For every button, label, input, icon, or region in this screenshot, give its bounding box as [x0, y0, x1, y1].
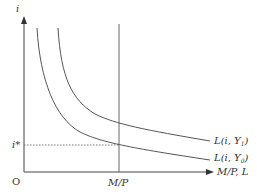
x-axis-label: M/P, L: [216, 166, 249, 177]
money-market-diagram: i i* O M/P M/P, L L(i, Y1) L(i, Y0): [0, 0, 257, 196]
y-axis-arrow-icon: [21, 16, 27, 24]
curve-y1-label: L(i, Y1): [213, 135, 249, 147]
money-supply-label: M/P: [107, 177, 129, 188]
x-axis-arrow-icon: [206, 169, 214, 175]
curve-l-i-y0: [37, 28, 210, 160]
equilibrium-rate-label: i*: [12, 139, 20, 150]
y-axis-label: i: [16, 3, 19, 14]
curve-l-i-y1: [58, 28, 210, 141]
curve-y0-label: L(i, Y0): [213, 152, 249, 164]
origin-label: O: [12, 176, 20, 187]
